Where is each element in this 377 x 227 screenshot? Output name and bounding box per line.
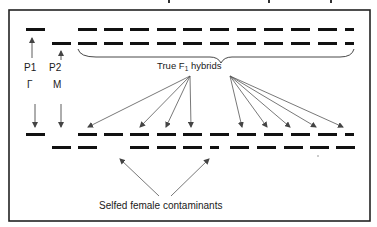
hybrid-purity-diagram: P1 P2 Γ M True F1 hybrids: [0, 0, 377, 227]
speck: [317, 155, 319, 157]
true-f1-hybrids-label: True F1 hybrids: [157, 60, 222, 72]
true-f1-prefix: True F: [157, 60, 185, 71]
diagram-frame: [9, 10, 370, 221]
p1-label: P1: [24, 62, 37, 73]
p2-label: P2: [49, 62, 62, 73]
contaminants-label: Selfed female contaminants: [99, 200, 222, 211]
p1-band: [26, 28, 45, 31]
contaminant-arrows: [120, 159, 209, 196]
p1-sex-symbol: Γ: [27, 79, 33, 90]
parent-bands-top: [26, 28, 71, 45]
f1-fan-arrows-left: [88, 76, 191, 127]
progeny-bands-row1: [26, 133, 354, 136]
p2-sex-symbol: M: [53, 79, 61, 90]
true-f1-suffix: hybrids: [188, 60, 222, 71]
p2-band: [52, 42, 71, 45]
f1-bands-row1: [78, 28, 354, 31]
progeny-bands-row2: [52, 146, 355, 149]
f1-fan-arrows-right: [230, 76, 343, 127]
f1-bands-row2: [78, 42, 354, 45]
cropped-caption-fragment: [168, 0, 332, 3]
